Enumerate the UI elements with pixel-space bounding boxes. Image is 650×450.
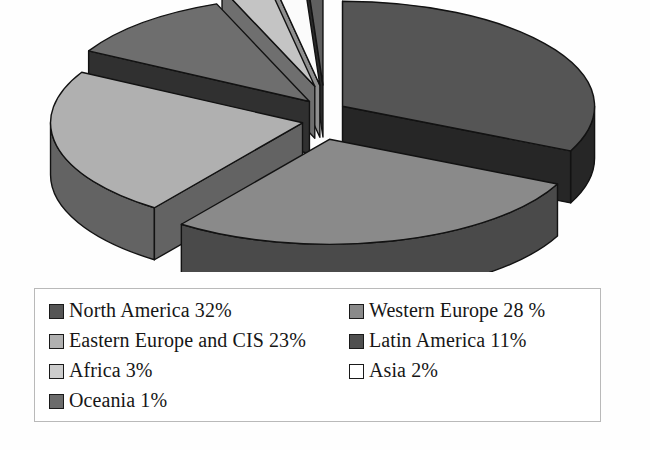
chart-legend: North America 32% Western Europe 28 % Ea…: [34, 288, 601, 422]
legend-item-asia[interactable]: Asia 2%: [349, 360, 600, 380]
legend-item-eastern-europe-and-cis[interactable]: Eastern Europe and CIS 23%: [49, 330, 349, 350]
legend-label-western-europe: Western Europe 28 %: [369, 300, 545, 320]
legend-swatch-africa: [49, 364, 64, 379]
legend-grid: North America 32% Western Europe 28 % Ea…: [35, 295, 600, 415]
legend-swatch-western-europe: [349, 304, 364, 319]
legend-item-latin-america[interactable]: Latin America 11%: [349, 330, 600, 350]
legend-label-asia: Asia 2%: [369, 360, 438, 380]
legend-item-oceania[interactable]: Oceania 1%: [49, 390, 349, 410]
pie-chart-graphic: [0, 0, 650, 272]
legend-label-oceania: Oceania 1%: [69, 390, 167, 410]
legend-item-western-europe[interactable]: Western Europe 28 %: [349, 300, 600, 320]
legend-item-north-america[interactable]: North America 32%: [49, 300, 349, 320]
legend-swatch-latin-america: [349, 334, 364, 349]
legend-label-eastern-europe-and-cis: Eastern Europe and CIS 23%: [69, 330, 306, 350]
legend-swatch-eastern-europe-and-cis: [49, 334, 64, 349]
legend-label-africa: Africa 3%: [69, 360, 153, 380]
legend-item-africa[interactable]: Africa 3%: [49, 360, 349, 380]
legend-swatch-north-america: [49, 304, 64, 319]
legend-swatch-asia: [349, 364, 364, 379]
pie-chart-figure: North America 32% Western Europe 28 % Ea…: [0, 0, 650, 450]
legend-label-latin-america: Latin America 11%: [369, 330, 527, 350]
legend-swatch-oceania: [49, 394, 64, 409]
legend-label-north-america: North America 32%: [69, 300, 232, 320]
pie-chart-svg: [0, 0, 650, 272]
